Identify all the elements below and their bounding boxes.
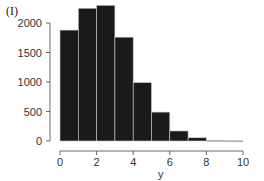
x-tick-label: 8 xyxy=(203,156,209,168)
histogram-bar xyxy=(133,83,151,141)
histogram-bar xyxy=(206,141,224,142)
x-tick-label: 10 xyxy=(237,156,249,168)
histogram-chart: (I) 05001000150020000246810y xyxy=(0,0,264,181)
y-tick-label: 1500 xyxy=(18,47,42,59)
x-tick-label: 4 xyxy=(130,156,136,168)
y-tick-label: 1000 xyxy=(18,76,42,88)
x-tick-label: 6 xyxy=(167,156,173,168)
y-tick-label: 2000 xyxy=(18,17,42,29)
histogram-bar xyxy=(225,141,243,142)
histogram-bar xyxy=(78,8,96,141)
x-tick-label: 2 xyxy=(94,156,100,168)
histogram-bar xyxy=(152,112,170,141)
histogram-bar xyxy=(115,37,133,141)
histogram-bar xyxy=(188,138,206,141)
histogram-bar xyxy=(170,131,188,141)
histogram-bar xyxy=(60,30,78,141)
histogram-bar xyxy=(97,5,115,141)
y-tick-label: 0 xyxy=(36,135,42,147)
y-tick-label: 500 xyxy=(24,106,42,118)
panel-label: (I) xyxy=(6,4,18,19)
plot-area: 05001000150020000246810y xyxy=(0,0,264,181)
x-axis-label: y xyxy=(158,168,164,180)
x-tick-label: 0 xyxy=(57,156,63,168)
